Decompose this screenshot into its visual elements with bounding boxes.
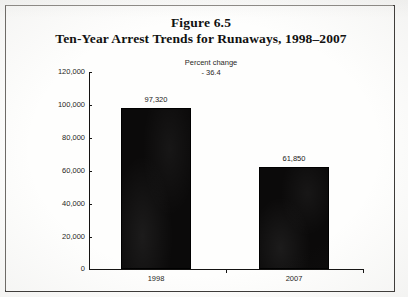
x-tick-mark <box>363 270 364 273</box>
y-tick-label: 0 <box>81 264 85 273</box>
bar-chart: Percent change - 36.4 120,000 100,000 80… <box>6 6 396 293</box>
x-category-label-2007: 2007 <box>259 274 329 283</box>
y-tick-label: 120,000 <box>58 67 85 76</box>
figure-frame: Figure 6.5 Ten-Year Arrest Trends for Ru… <box>5 5 395 292</box>
y-tick-label: 20,000 <box>62 232 85 241</box>
bar-2007 <box>259 167 329 269</box>
y-tick-mark <box>89 237 92 238</box>
y-tick-label: 60,000 <box>62 166 85 175</box>
x-tick-mark <box>226 270 227 273</box>
y-tick-mark <box>89 72 92 73</box>
y-tick-label: 40,000 <box>62 199 85 208</box>
bar-value-1998: 97,320 <box>121 95 191 104</box>
scanned-page: Figure 6.5 Ten-Year Arrest Trends for Ru… <box>0 0 408 297</box>
bar-1998 <box>121 108 191 269</box>
percent-change-annotation: Percent change - 36.4 <box>151 58 271 77</box>
y-tick-mark <box>89 138 92 139</box>
y-tick-label: 100,000 <box>58 100 85 109</box>
bar-value-2007: 61,850 <box>259 154 329 163</box>
y-tick-mark <box>89 171 92 172</box>
percent-change-label: Percent change <box>151 58 271 68</box>
y-tick-mark <box>89 105 92 106</box>
percent-change-value: - 36.4 <box>151 68 271 78</box>
y-tick-mark <box>89 204 92 205</box>
x-category-label-1998: 1998 <box>121 274 191 283</box>
y-tick-label: 80,000 <box>62 133 85 142</box>
y-tick-mark <box>89 269 92 270</box>
